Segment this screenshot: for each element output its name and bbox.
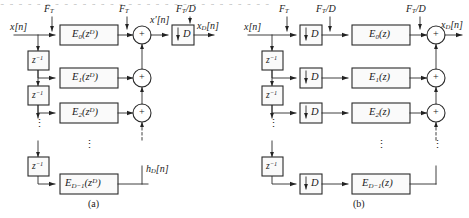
adder-b-1: + xyxy=(433,72,439,82)
rate-label-a-input: FT xyxy=(44,4,54,15)
branch-a-last-argexp: D xyxy=(92,177,97,184)
branch-b-1-sub: 1 xyxy=(375,76,378,83)
adder-a-2: + xyxy=(139,107,145,117)
impulse-a-suffix: [n] xyxy=(156,163,169,174)
rate-label-b-mid: FT/D xyxy=(316,4,336,15)
rate-a-input-sub: T xyxy=(50,7,54,14)
vertical-dots-b-branches: ⋮ xyxy=(376,143,385,146)
downsampler-label-b-1: D xyxy=(311,72,319,83)
branch-b-last-sub: D−1 xyxy=(368,182,381,189)
intermediate-signal-label-a: x′[n] xyxy=(150,15,169,25)
branch-a-0-argexp: D xyxy=(89,28,94,35)
branch-a-last-sub: D−1 xyxy=(71,182,84,189)
downsampler-label-b-3: D xyxy=(311,178,319,189)
downsampler-label-b-2: D xyxy=(311,107,319,118)
delay-block-a-0: z−1 xyxy=(32,55,43,65)
branch-block-b-1: E1(z) xyxy=(369,72,390,83)
adder-a-0: + xyxy=(139,29,145,39)
branch-b-2-sub: 2 xyxy=(375,111,378,118)
delay-block-b-2: z−1 xyxy=(266,161,277,171)
adder-a-1: + xyxy=(139,72,145,82)
caption-b: (b) xyxy=(353,199,365,209)
rate-label-b-output: FT/D xyxy=(406,4,426,15)
branch-b-1-arg: z xyxy=(382,71,386,82)
delay-a-2-exp: −1 xyxy=(36,160,43,167)
vertical-dots-b-delay: ⋮ xyxy=(268,122,277,125)
impulse-response-label-a: hD[n] xyxy=(146,164,169,175)
vertical-dots-a-delay: ⋮ xyxy=(34,122,43,125)
delay-block-b-0: z−1 xyxy=(266,55,277,65)
branch-block-a-2: E2(zD) xyxy=(72,107,98,119)
rate-b-out-suffix: /D xyxy=(416,3,426,14)
branch-block-b-2: E2(z) xyxy=(369,107,390,118)
delay-a-0-exp: −1 xyxy=(36,54,43,61)
branch-b-0-arg: z xyxy=(382,28,386,39)
adder-b-2: + xyxy=(433,107,439,117)
branch-block-a-1: E1(zD) xyxy=(72,72,98,84)
rate-a-mid-sub: T xyxy=(125,7,129,14)
rate-label-b-input: FT xyxy=(279,4,289,15)
rate-label-a-mid: FT xyxy=(119,4,129,15)
caption-a: (a) xyxy=(88,199,99,209)
adder-b-0: + xyxy=(433,29,439,39)
rate-label-a-output: FT/D xyxy=(176,4,196,15)
branch-block-a-last: ED−1(zD) xyxy=(65,178,101,190)
branch-a-1-sub: 1 xyxy=(78,76,81,83)
rate-b-mid-suffix: /D xyxy=(326,3,336,14)
branch-a-2-sub: 2 xyxy=(78,111,81,118)
branch-b-last-arg: z xyxy=(385,177,389,188)
branch-a-2-argexp: D xyxy=(89,106,94,113)
delay-block-b-1: z−1 xyxy=(266,90,277,100)
input-signal-label-b: x[n] xyxy=(244,22,261,32)
rate-a-out-suffix: /D xyxy=(186,3,196,14)
vertical-dots-a-branches: ⋮ xyxy=(84,143,93,146)
delay-a-1-exp: −1 xyxy=(36,89,43,96)
delay-b-2-exp: −1 xyxy=(270,160,277,167)
output-a-suffix: [n] xyxy=(206,20,219,31)
output-signal-label-a: xD[n] xyxy=(197,21,219,32)
delay-b-1-exp: −1 xyxy=(270,89,277,96)
output-b-suffix: [n] xyxy=(450,19,463,30)
delay-block-a-1: z−1 xyxy=(32,90,43,100)
downsampler-label-a: D xyxy=(183,29,191,40)
branch-b-0-sub: 0 xyxy=(375,33,378,40)
branch-block-a-0: E0(zD) xyxy=(72,29,98,41)
rate-b-input-sub: T xyxy=(285,7,289,14)
downsampler-label-b-0: D xyxy=(311,29,319,40)
output-signal-label-b: xD[n] xyxy=(441,20,463,31)
figure-root: a a a a a a a a a a a a a a a a a a a a … xyxy=(0,0,469,218)
delay-block-a-2: z−1 xyxy=(32,161,43,171)
delay-b-0-exp: −1 xyxy=(270,54,277,61)
branch-a-0-sub: 0 xyxy=(78,33,81,40)
input-signal-label-a: x[n] xyxy=(10,22,27,32)
branch-b-2-arg: z xyxy=(382,106,386,117)
branch-a-1-argexp: D xyxy=(89,71,94,78)
vertical-dots-b-adders: ⋮ xyxy=(432,143,441,146)
branch-block-b-0: E0(z) xyxy=(369,29,390,40)
branch-block-b-last: ED−1(z) xyxy=(362,178,393,189)
